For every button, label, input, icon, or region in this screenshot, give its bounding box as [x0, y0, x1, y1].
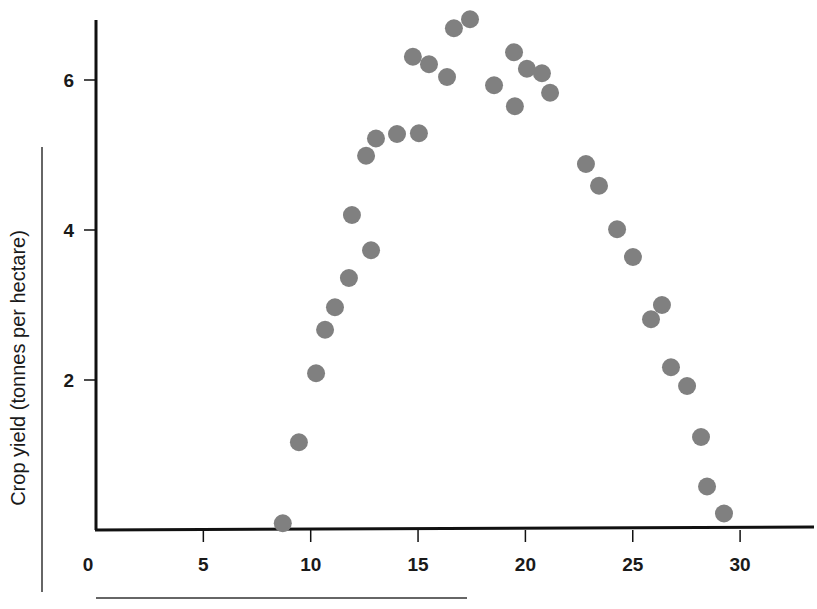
- data-point: [698, 478, 716, 496]
- data-point: [410, 124, 428, 142]
- data-point: [541, 84, 559, 102]
- data-point: [404, 48, 422, 66]
- x-axis-ticks: 051015202530: [83, 530, 751, 575]
- x-tick-label: 25: [622, 554, 644, 575]
- data-point: [274, 514, 292, 532]
- data-points: [274, 10, 733, 532]
- data-point: [357, 147, 375, 165]
- data-point: [624, 248, 642, 266]
- data-point: [316, 321, 334, 339]
- data-point: [290, 433, 308, 451]
- y-axis-title: Crop yield (tonnes per hectare): [7, 230, 29, 506]
- data-point: [362, 241, 380, 259]
- x-tick-label: 5: [198, 554, 209, 575]
- data-point: [577, 155, 595, 173]
- data-point: [340, 269, 358, 287]
- data-point: [505, 43, 523, 61]
- y-tick-label: 2: [63, 370, 74, 391]
- x-tick-label: 20: [515, 554, 536, 575]
- y-tick-label: 4: [63, 220, 74, 241]
- data-point: [485, 76, 503, 94]
- x-tick-label: 15: [407, 554, 429, 575]
- x-tick-label: 10: [300, 554, 321, 575]
- data-point: [367, 130, 385, 148]
- data-point: [608, 220, 626, 238]
- x-axis-line: [95, 527, 814, 530]
- data-point: [533, 64, 551, 82]
- data-point: [461, 10, 479, 28]
- data-point: [715, 505, 733, 523]
- data-point: [642, 310, 660, 328]
- data-point: [445, 19, 463, 37]
- data-point: [343, 206, 361, 224]
- data-point: [438, 68, 456, 86]
- data-point: [653, 296, 671, 314]
- x-tick-label: 0: [83, 554, 94, 575]
- data-point: [678, 377, 696, 395]
- data-point: [662, 358, 680, 376]
- x-tick-label: 30: [730, 554, 751, 575]
- data-point: [388, 125, 406, 143]
- data-point: [506, 97, 524, 115]
- data-point: [326, 298, 344, 316]
- data-point: [307, 364, 325, 382]
- y-axis-ticks: 246: [63, 70, 96, 391]
- scatter-chart: Crop yield (tonnes per hectare) 246 0510…: [0, 0, 817, 609]
- y-tick-label: 6: [63, 70, 74, 91]
- data-point: [420, 55, 438, 73]
- data-point: [590, 177, 608, 195]
- data-point: [692, 428, 710, 446]
